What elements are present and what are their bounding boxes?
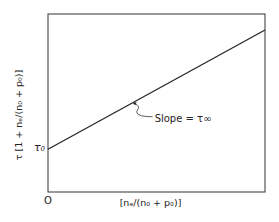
annotation-leader [135, 104, 153, 117]
annotation-text: Slope = τ∞ [155, 113, 212, 124]
chart: Slope = τ∞ τ₀ O [nₑ/(n₀ + p₀)] τ [1 + nₑ… [0, 0, 279, 222]
x-axis-label: [nₑ/(n₀ + p₀)] [120, 197, 182, 208]
y-tick-label-tau0: τ₀ [34, 141, 46, 154]
series-line [48, 30, 265, 149]
x-tick-label-origin: O [44, 195, 52, 206]
plot-frame [48, 14, 265, 192]
annotation-arrowhead [133, 102, 137, 105]
y-axis-label: τ [1 + nₑ/(n₀ + p₀)] [13, 70, 24, 160]
